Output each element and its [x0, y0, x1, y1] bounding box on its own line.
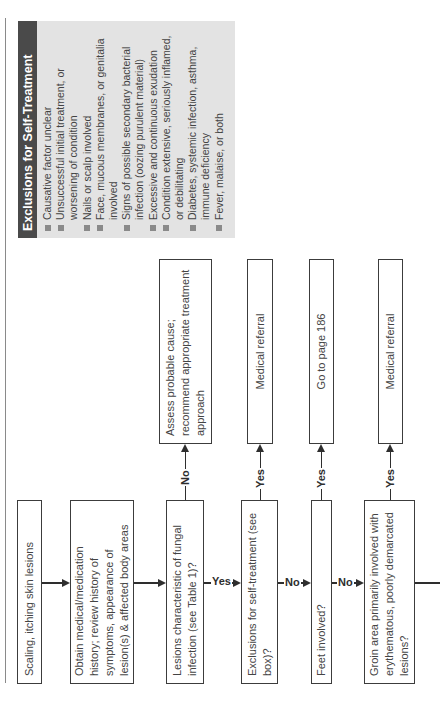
exclusion-item: Fever, malaise, or both — [213, 27, 226, 232]
exclusion-item: Excessive and continuous exudation — [147, 27, 160, 232]
edge-label-yes: Yes — [315, 468, 327, 489]
flow-box-feet-question: Feet involved? — [311, 500, 332, 684]
flow-box-text: Go to page 186 — [314, 314, 329, 390]
edge-label-no: No — [284, 576, 301, 588]
exclusion-item: Condition extensive, seriously inflamed,… — [160, 27, 186, 232]
flow-box-medical-referral-1: Medical referral — [247, 259, 273, 444]
arrowhead-icon — [181, 444, 189, 452]
exclusion-item: Face, mucous membranes, or genitalia inv… — [94, 27, 120, 232]
flowchart-rotated: Exclusions for Self-Treatment Causative … — [0, 0, 440, 702]
connector-start-history — [42, 582, 62, 584]
exclusion-item: Nails or scalp involved — [81, 27, 94, 232]
arrowhead-icon — [158, 579, 166, 587]
arrowhead-icon — [386, 444, 394, 452]
flow-box-start: Scaling, itching skin lesions — [17, 500, 42, 684]
edge-label-yes: Yes — [211, 575, 232, 587]
arrowhead-icon — [233, 579, 241, 587]
edge-label-no: No — [179, 469, 191, 486]
flow-box-text: Medical referral — [383, 314, 398, 390]
arrowhead-icon — [256, 444, 264, 452]
flow-box-assess-cause: Assess probable cause; recommend appropr… — [159, 259, 212, 444]
exclusions-title: Exclusions for Self-Treatment — [18, 21, 37, 238]
flow-box-text: Groin area primarily involved with eryth… — [367, 508, 412, 676]
flow-box-go-to-page-186: Go to page 186 — [309, 259, 334, 444]
exclusion-item: Unsuccessful initial treatment, or worse… — [54, 27, 80, 232]
flow-box-text: Assess probable cause; recommend appropr… — [163, 267, 208, 436]
flow-box-text: Exclusions for self-treatment (see box)? — [245, 508, 275, 676]
edge-label-yes: Yes — [384, 468, 396, 489]
margin-rule — [5, 18, 6, 683]
exclusion-item: Causative factor unclear — [41, 27, 54, 232]
flow-box-history: Obtain medical/medication history; revie… — [70, 500, 134, 684]
exclusions-box: Exclusions for Self-Treatment Causative … — [18, 21, 235, 238]
exclusion-item: Signs of possible secondary bacterial in… — [120, 27, 146, 232]
arrowhead-icon — [317, 444, 325, 452]
flow-box-text: Feet involved? — [314, 604, 329, 676]
flow-box-text: Obtain medical/medication history; revie… — [72, 508, 132, 676]
exclusions-list: Causative factor unclear Unsuccessful in… — [41, 21, 226, 238]
flow-box-fungal-question: Lesions characteristic of fungal infecti… — [166, 500, 204, 684]
arrowhead-icon — [62, 579, 70, 587]
flow-box-text: Medical referral — [253, 314, 268, 390]
flow-box-exclusions-question: Exclusions for self-treatment (see box)? — [241, 500, 278, 684]
connector-history-fungal — [134, 582, 158, 584]
arrowhead-icon — [303, 579, 311, 587]
edge-label-no: No — [337, 576, 354, 588]
flow-box-medical-referral-2: Medical referral — [378, 259, 403, 444]
connector-groin-continue — [415, 582, 440, 584]
flow-box-groin-question: Groin area primarily involved with eryth… — [364, 500, 415, 684]
edge-label-yes: Yes — [254, 468, 266, 489]
flow-box-text: Scaling, itching skin lesions — [22, 542, 37, 676]
exclusion-item: Diabetes, systemic infection, asthma, im… — [186, 27, 212, 232]
arrowhead-icon — [356, 579, 364, 587]
flow-box-text: Lesions characteristic of fungal infecti… — [170, 508, 200, 676]
